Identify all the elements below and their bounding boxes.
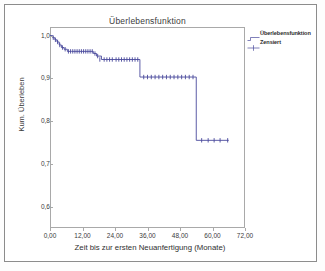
x-tick-mark bbox=[115, 228, 116, 231]
plus-tick-icon bbox=[247, 38, 260, 46]
y-tick-mark bbox=[50, 207, 53, 208]
x-tick-label: 12,00 bbox=[68, 232, 98, 239]
y-tick-label: 0,6 bbox=[28, 203, 50, 210]
legend-item-censored: Zensiert bbox=[247, 38, 321, 46]
y-tick-label: 1,0 bbox=[28, 32, 50, 39]
censored-marks-group bbox=[53, 35, 227, 142]
x-tick-label: 48,00 bbox=[165, 232, 195, 239]
y-tick-mark bbox=[50, 164, 53, 165]
x-tick-label: 0,00 bbox=[35, 232, 65, 239]
chart-legend: Überlebensfunktion Zensiert bbox=[247, 27, 321, 47]
x-tick-mark bbox=[180, 228, 181, 231]
x-tick-mark bbox=[83, 228, 84, 231]
x-axis-ticks: 0,0012,0024,0036,0048,0060,0072,00 bbox=[50, 228, 245, 244]
x-tick-label: 60,00 bbox=[198, 232, 228, 239]
x-tick-label: 24,00 bbox=[100, 232, 130, 239]
y-axis-ticks: 1,00,90,80,70,6 bbox=[22, 27, 50, 228]
y-axis-title: Kum. Überleben bbox=[17, 45, 26, 165]
chart-title: Überlebensfunktion bbox=[50, 16, 245, 26]
x-tick-mark bbox=[213, 228, 214, 231]
x-tick-mark bbox=[50, 228, 51, 231]
x-axis-title: Zeit bis zur ersten Neuanfertigung (Mona… bbox=[30, 243, 270, 252]
y-tick-label: 0,8 bbox=[28, 117, 50, 124]
y-tick-mark bbox=[50, 121, 53, 122]
legend-label-censored: Zensiert bbox=[260, 39, 281, 45]
legend-item-survival: Überlebensfunktion bbox=[247, 29, 321, 37]
legend-label-survival: Überlebensfunktion bbox=[260, 30, 311, 36]
step-line-icon bbox=[247, 29, 260, 37]
y-tick-mark bbox=[50, 78, 53, 79]
y-tick-label: 0,7 bbox=[28, 160, 50, 167]
x-tick-label: 72,00 bbox=[230, 232, 260, 239]
x-tick-label: 36,00 bbox=[133, 232, 163, 239]
x-tick-mark bbox=[148, 228, 149, 231]
y-tick-label: 0,9 bbox=[28, 74, 50, 81]
survival-chart-figure: Überlebensfunktion 1,00,90,80,70,6 Kum. … bbox=[0, 0, 325, 271]
survival-curve-plot bbox=[50, 27, 245, 228]
y-tick-mark bbox=[50, 36, 53, 37]
x-tick-mark bbox=[245, 228, 246, 231]
